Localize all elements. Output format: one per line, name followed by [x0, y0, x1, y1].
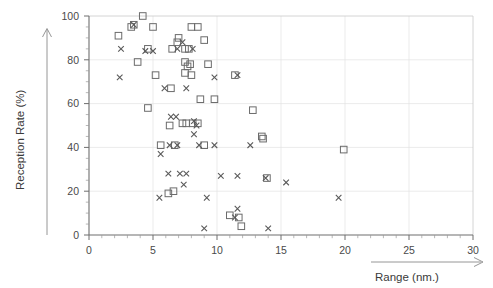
y-tick-label: 40: [67, 141, 79, 153]
y-tick-label: 0: [73, 229, 79, 241]
scatter-chart: 051015202530020406080100 Range (nm.) Rec…: [0, 0, 493, 288]
data-point-square: [186, 46, 193, 53]
data-point-cross: [118, 46, 124, 52]
axis-ticks: [84, 16, 473, 240]
data-point-square: [115, 32, 122, 39]
x-axis-title: Range (nm.): [375, 271, 439, 283]
data-point-cross: [190, 46, 196, 52]
x-tick-label: 25: [403, 244, 415, 256]
y-tick-label: 60: [67, 97, 79, 109]
x-tick-label: 20: [339, 244, 351, 256]
data-point-cross: [143, 48, 149, 54]
data-point-cross: [218, 173, 224, 179]
data-point-cross: [117, 75, 123, 81]
data-point-cross: [158, 151, 164, 157]
data-point-cross: [177, 171, 183, 177]
data-point-cross: [173, 114, 179, 120]
data-point-cross: [235, 206, 241, 212]
data-point-cross: [283, 180, 289, 186]
data-point-cross: [235, 173, 241, 179]
y-tick-label: 100: [61, 10, 79, 22]
plot-svg: 051015202530020406080100 Range (nm.) Rec…: [0, 0, 493, 288]
data-point-cross: [183, 85, 189, 91]
data-point-cross: [181, 182, 187, 188]
data-point-cross: [131, 22, 137, 28]
y-axis-title: Reception Rate (%): [14, 89, 26, 190]
data-point-square: [197, 96, 204, 103]
data-point-square: [238, 223, 245, 230]
data-point-cross: [265, 226, 271, 232]
data-point-cross: [166, 171, 172, 177]
data-point-square: [184, 63, 191, 70]
data-point-cross: [235, 72, 241, 78]
data-point-square: [188, 72, 195, 79]
data-point-square: [235, 214, 242, 221]
data-point-square: [205, 61, 212, 68]
data-point-cross: [168, 114, 174, 120]
data-markers: [115, 13, 347, 232]
data-point-cross: [183, 171, 189, 177]
data-point-square: [183, 120, 190, 127]
data-point-square: [182, 46, 189, 53]
data-point-square: [182, 70, 189, 77]
x-tick-label: 30: [467, 244, 479, 256]
x-tick-label: 15: [275, 244, 287, 256]
x-tick-label: 5: [150, 244, 156, 256]
data-point-cross: [201, 226, 207, 232]
data-point-square: [264, 175, 271, 182]
series-squares: [115, 13, 347, 230]
x-tick-label: 0: [86, 244, 92, 256]
data-point-square: [168, 85, 175, 92]
data-point-square: [166, 122, 173, 129]
data-point-square: [195, 24, 202, 31]
axis-tick-labels: 051015202530020406080100: [61, 10, 479, 256]
data-point-square: [188, 24, 195, 31]
data-point-cross: [157, 195, 163, 201]
data-point-square: [201, 37, 208, 44]
data-point-cross: [191, 131, 197, 137]
data-point-cross: [212, 75, 218, 81]
series-crosses: [117, 22, 341, 231]
data-point-cross: [336, 195, 342, 201]
data-point-square: [179, 120, 186, 127]
y-tick-label: 20: [67, 185, 79, 197]
data-point-cross: [162, 85, 168, 91]
gridlines: [89, 16, 473, 235]
y-tick-label: 80: [67, 54, 79, 66]
data-point-square: [145, 105, 152, 112]
x-tick-label: 10: [211, 244, 223, 256]
data-point-square: [250, 107, 257, 114]
data-point-cross: [204, 195, 210, 201]
